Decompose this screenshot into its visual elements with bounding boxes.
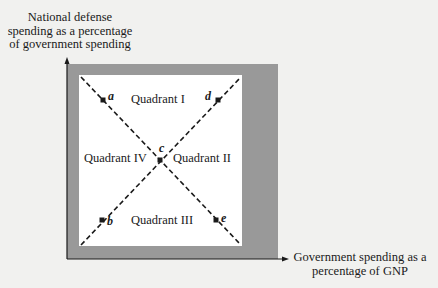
quadrant-3-label: Quadrant III — [131, 213, 193, 228]
point-c-label: c — [159, 141, 164, 156]
point-d-label: d — [205, 89, 211, 104]
point-a — [101, 98, 106, 103]
point-b — [100, 218, 105, 223]
point-b-label: b — [107, 214, 113, 229]
quadrant-1-label: Quadrant I — [131, 92, 185, 107]
x-axis-label: Government spending as a percentage of G… — [285, 251, 435, 278]
x-axis-label-line-1: Government spending as a — [285, 251, 435, 265]
quadrant-2-label: Quadrant II — [173, 151, 231, 166]
point-d — [216, 98, 221, 103]
point-a-label: a — [108, 89, 114, 104]
quadrant-diagram — [0, 0, 438, 288]
y-axis-arrow-icon — [65, 57, 70, 64]
x-axis-label-line-2: percentage of GNP — [285, 265, 435, 279]
quadrant-4-label: Quadrant IV — [84, 151, 147, 166]
point-e-label: e — [221, 211, 226, 226]
point-c — [158, 158, 163, 163]
point-e — [214, 218, 219, 223]
